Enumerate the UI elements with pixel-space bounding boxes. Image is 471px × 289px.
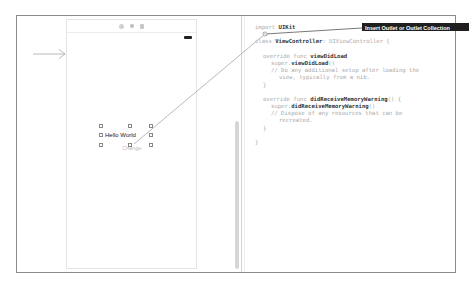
code-token: ViewController <box>275 38 322 44</box>
code-line[interactable]: import UIKit <box>255 24 295 31</box>
initial-view-controller-arrow-icon <box>33 49 67 59</box>
view-controller-icon[interactable] <box>119 24 124 29</box>
code-token: override func <box>263 96 310 102</box>
resize-handle[interactable] <box>99 124 103 128</box>
editor-divider[interactable] <box>241 16 242 272</box>
code-editor[interactable]: import UIKitclass ViewController: UIView… <box>245 16 455 272</box>
code-token: super. <box>271 60 291 66</box>
code-token: : UIViewController { <box>322 38 389 44</box>
code-token: recreated. <box>279 117 313 123</box>
resize-handle[interactable] <box>149 143 153 147</box>
code-token: view, typically from a nib. <box>279 74 370 80</box>
view-controller-scene[interactable]: Hello World Change <box>66 19 197 269</box>
resize-handle[interactable] <box>149 124 153 128</box>
code-line[interactable]: super.didReceiveMemoryWarning() <box>271 103 375 110</box>
code-line[interactable]: view, typically from a nib. <box>279 74 370 81</box>
code-token: // Dispose of any resources that can be <box>271 110 402 116</box>
code-token: didReceiveMemoryWarning <box>291 103 368 109</box>
first-responder-icon[interactable] <box>130 24 134 28</box>
hello-world-label[interactable]: Hello World <box>105 132 136 138</box>
code-token: import <box>255 24 279 30</box>
scene-dock <box>67 20 196 33</box>
exit-icon[interactable] <box>140 24 144 29</box>
resize-handle[interactable] <box>99 143 103 147</box>
code-line[interactable]: override func didReceiveMemoryWarning() … <box>263 96 401 103</box>
code-token: viewDidLoad <box>291 60 328 66</box>
code-line[interactable]: } <box>263 125 266 132</box>
code-token: // Do any additional setup after loading… <box>271 67 419 73</box>
code-token: didReceiveMemoryWarning <box>310 96 387 102</box>
resize-handle[interactable] <box>149 133 153 137</box>
code-line[interactable]: class ViewController: UIViewController { <box>255 38 390 45</box>
battery-icon <box>184 36 192 39</box>
storyboard-canvas[interactable]: Hello World Change <box>17 16 240 272</box>
code-line[interactable]: recreated. <box>279 117 313 124</box>
code-line[interactable]: super.viewDidLoad() <box>271 60 335 67</box>
code-token: () <box>328 60 335 66</box>
code-token: } <box>255 139 258 145</box>
code-token: viewDidLoad <box>310 53 347 59</box>
canvas-scrollbar[interactable] <box>235 121 239 269</box>
code-token: () <box>369 103 376 109</box>
code-line[interactable]: } <box>263 82 266 89</box>
code-token: } <box>263 82 266 88</box>
code-token: () { <box>388 96 401 102</box>
code-token: override func <box>263 53 310 59</box>
resize-handle[interactable] <box>128 124 132 128</box>
code-token: super. <box>271 103 291 109</box>
code-token: UIKit <box>279 24 296 30</box>
change-button[interactable]: Change <box>122 145 141 151</box>
resize-handle[interactable] <box>99 133 103 137</box>
code-token: } <box>263 125 266 131</box>
insert-outlet-tooltip: Insert Outlet or Outlet Collection <box>362 23 469 31</box>
xcode-assistant-editor: Hello World Change import UIKitclass Vie… <box>16 15 456 273</box>
code-line[interactable]: // Do any additional setup after loading… <box>271 67 419 74</box>
code-line[interactable]: } <box>255 139 258 146</box>
code-line[interactable]: override func viewDidLoad <box>263 53 347 60</box>
code-token: class <box>255 38 275 44</box>
code-line[interactable]: // Dispose of any resources that can be <box>271 110 402 117</box>
